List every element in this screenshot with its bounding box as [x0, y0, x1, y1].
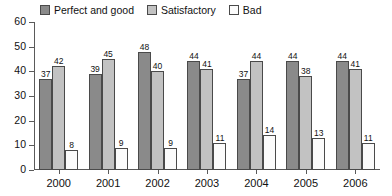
bar-group: 3744142004 — [232, 22, 281, 170]
bar[interactable]: 11 — [213, 143, 226, 170]
legend-label: Bad — [243, 5, 262, 16]
x-axis-tick-label: 2006 — [343, 177, 367, 190]
bar[interactable]: 44 — [286, 61, 299, 170]
bar-group: 394592001 — [83, 22, 132, 170]
bar-value-label: 13 — [314, 129, 323, 138]
bar-value-label: 39 — [90, 65, 99, 74]
bar[interactable]: 38 — [299, 76, 312, 170]
bar-value-label: 42 — [54, 57, 63, 66]
y-axis-tick-label: 0 — [20, 163, 26, 176]
bar-slot: 41 — [349, 69, 362, 170]
y-axis-tick-label: 60 — [14, 15, 26, 28]
x-axis-tick — [59, 170, 60, 174]
bar[interactable]: 37 — [237, 79, 250, 170]
bar-value-label: 38 — [301, 67, 310, 76]
bar-value-label: 37 — [239, 70, 248, 79]
bar-slot: 8 — [65, 150, 78, 170]
legend-entry[interactable]: Perfect and good — [40, 5, 134, 16]
bar-slot: 44 — [187, 61, 200, 170]
bar-value-label: 9 — [119, 139, 124, 148]
bar-slot: 42 — [52, 66, 65, 170]
bar-value-label: 45 — [103, 50, 112, 59]
bar-value-label: 44 — [252, 52, 261, 61]
bar[interactable]: 13 — [312, 138, 325, 170]
bar-chart: Perfect and goodSatisfactoryBad 60504030… — [0, 0, 392, 196]
x-axis-tick-label: 2005 — [294, 177, 318, 190]
x-axis-tick — [158, 170, 159, 174]
y-axis-tick-label: 20 — [14, 114, 26, 127]
bar-group: 4441112006 — [331, 22, 380, 170]
bar[interactable]: 11 — [362, 143, 375, 170]
x-axis-tick-label: 2001 — [96, 177, 120, 190]
chart-legend: Perfect and goodSatisfactoryBad — [40, 2, 262, 18]
bar[interactable]: 44 — [336, 61, 349, 170]
legend-swatch-icon — [229, 5, 239, 15]
legend-entry[interactable]: Satisfactory — [147, 5, 216, 16]
y-axis-tick-label: 40 — [14, 64, 26, 77]
x-axis-tick — [108, 170, 109, 174]
bar-group: 484092002 — [133, 22, 182, 170]
bar[interactable]: 39 — [89, 74, 102, 170]
bar[interactable]: 14 — [263, 135, 276, 170]
bar-value-label: 41 — [202, 60, 211, 69]
x-axis-tick — [256, 170, 257, 174]
y-axis-tick: 0 — [29, 170, 34, 171]
x-axis-tick-label: 2004 — [244, 177, 268, 190]
bar[interactable]: 37 — [39, 79, 52, 170]
bar-slot: 39 — [89, 74, 102, 170]
bar-slot: 48 — [138, 52, 151, 170]
x-axis-tick — [306, 170, 307, 174]
bar-slot: 45 — [102, 59, 115, 170]
bar[interactable]: 42 — [52, 66, 65, 170]
bar-group: 374282000 — [34, 22, 83, 170]
bar-value-label: 44 — [288, 52, 297, 61]
bar[interactable]: 44 — [250, 61, 263, 170]
bar-value-label: 8 — [69, 141, 74, 150]
bar-slot: 44 — [286, 61, 299, 170]
bar-slot: 11 — [213, 143, 226, 170]
plot-area: 6050403020100 37428200039459200148409200… — [34, 22, 380, 170]
bar-slot: 9 — [164, 148, 177, 170]
bar-value-label: 41 — [351, 60, 360, 69]
bar[interactable]: 48 — [138, 52, 151, 170]
bar[interactable]: 9 — [115, 148, 128, 170]
bar-value-label: 37 — [41, 70, 50, 79]
bar-value-label: 44 — [338, 52, 347, 61]
bar-slot: 40 — [151, 71, 164, 170]
bar-slot: 44 — [336, 61, 349, 170]
bar-value-label: 44 — [189, 52, 198, 61]
x-axis-tick — [207, 170, 208, 174]
y-axis-tick-label: 30 — [14, 89, 26, 102]
x-axis-tick-label: 2003 — [195, 177, 219, 190]
legend-label: Satisfactory — [161, 5, 216, 16]
bar-group: 4441112003 — [182, 22, 231, 170]
bar-value-label: 40 — [153, 62, 162, 71]
bar[interactable]: 8 — [65, 150, 78, 170]
x-axis-tick-label: 2000 — [46, 177, 70, 190]
bar-slot: 37 — [237, 79, 250, 170]
bar-slot: 13 — [312, 138, 325, 170]
bar-slot: 37 — [39, 79, 52, 170]
bar[interactable]: 45 — [102, 59, 115, 170]
bar[interactable]: 40 — [151, 71, 164, 170]
bar-slot: 11 — [362, 143, 375, 170]
bar-value-label: 11 — [364, 134, 373, 143]
bar-slot: 14 — [263, 135, 276, 170]
bar[interactable]: 44 — [187, 61, 200, 170]
legend-swatch-icon — [40, 5, 50, 15]
y-axis-tick-label: 10 — [14, 138, 26, 151]
bar-slot: 9 — [115, 148, 128, 170]
legend-entry[interactable]: Bad — [229, 5, 262, 16]
bar-value-label: 9 — [168, 139, 173, 148]
y-axis-tick-label: 50 — [14, 40, 26, 53]
bar[interactable]: 41 — [349, 69, 362, 170]
bar-slot: 44 — [250, 61, 263, 170]
bar-slot: 41 — [200, 69, 213, 170]
bar[interactable]: 41 — [200, 69, 213, 170]
bar-value-label: 11 — [216, 134, 225, 143]
legend-label: Perfect and good — [54, 5, 134, 16]
bar[interactable]: 9 — [164, 148, 177, 170]
x-axis-tick — [355, 170, 356, 174]
x-axis-tick-label: 2002 — [145, 177, 169, 190]
bar-group: 4438132005 — [281, 22, 330, 170]
